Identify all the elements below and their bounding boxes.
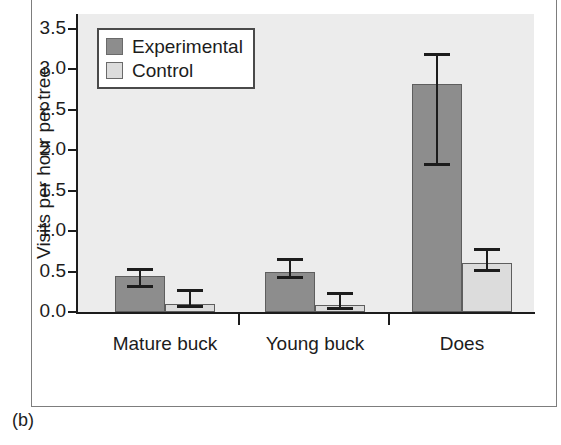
- bar-control-young-buck-error-bar: [327, 292, 353, 311]
- y-tick-mark: [68, 311, 77, 313]
- legend-swatch-icon-experimental: [106, 38, 123, 55]
- x-axis-separator: [238, 313, 240, 325]
- legend: Experimental Control: [97, 28, 255, 89]
- y-tick-mark: [68, 109, 77, 111]
- y-tick-label: 0.0: [22, 301, 66, 320]
- error-cap-bottom: [327, 307, 353, 310]
- y-axis-title: Visits per hour per tree: [33, 23, 55, 303]
- legend-item-experimental: Experimental: [106, 34, 243, 58]
- error-cap-bottom: [424, 163, 450, 166]
- error-cap-bottom: [177, 305, 203, 308]
- error-cap-bottom: [277, 276, 303, 279]
- error-cap-bottom: [127, 285, 153, 288]
- bar-experimental-young-buck-error-bar: [277, 258, 303, 279]
- bar-control-mature-buck-error-bar: [177, 289, 203, 308]
- y-tick-mark: [68, 230, 77, 232]
- error-stem: [436, 53, 438, 166]
- x-axis-line: [76, 312, 535, 314]
- bar-control-does-error-bar: [474, 248, 500, 271]
- y-tick-mark: [68, 190, 77, 192]
- legend-label-experimental: Experimental: [132, 37, 243, 56]
- y-axis-line: [76, 14, 78, 313]
- legend-item-control: Control: [106, 58, 243, 82]
- y-tick-mark: [68, 68, 77, 70]
- legend-label-control: Control: [132, 61, 193, 80]
- figure-caption: (b): [12, 410, 34, 431]
- y-tick-mark: [68, 28, 77, 30]
- x-axis-separator: [388, 313, 390, 325]
- x-axis-label-does: Does: [362, 333, 561, 355]
- y-tick-mark: [68, 149, 77, 151]
- bar-experimental-does-error-bar: [424, 53, 450, 166]
- legend-swatch-icon-control: [106, 62, 123, 79]
- error-cap-bottom: [474, 269, 500, 272]
- y-tick-mark: [68, 271, 77, 273]
- bar-experimental-mature-buck-error-bar: [127, 268, 153, 287]
